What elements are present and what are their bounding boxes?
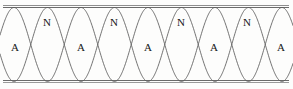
node-label-1: N <box>43 17 51 28</box>
antinode-label-1: A <box>11 42 19 53</box>
node-label-2: N <box>110 17 118 28</box>
standing-wave-figure: N N N N A A A A A <box>0 0 293 89</box>
antinode-label-4: A <box>210 42 218 53</box>
top-rail <box>3 6 289 8</box>
antinode-label-2: A <box>77 42 85 53</box>
node-label-3: N <box>177 17 185 28</box>
antinode-label-3: A <box>144 42 152 53</box>
antinode-label-5: A <box>277 42 285 53</box>
node-label-4: N <box>243 17 251 28</box>
